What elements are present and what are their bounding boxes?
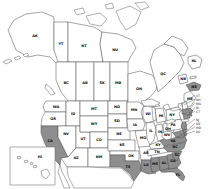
region-label-nm: NM: [96, 155, 103, 159]
region-label-mt: MT: [91, 107, 97, 111]
region-label-pa: PA: [171, 123, 176, 127]
region-label-mn: MN: [131, 108, 137, 112]
region-label-oh: OH: [165, 127, 171, 131]
region-label-ab: AB: [82, 81, 88, 85]
region-label-wv: WV: [164, 133, 171, 137]
region-label-ut: UT: [80, 137, 86, 141]
region-label-nu: NU: [112, 48, 118, 52]
region-pe: [190, 76, 196, 79]
hawaii-inset-label: HI: [38, 155, 42, 159]
region-label-fl: FL: [176, 173, 181, 177]
region-label-wi: WI: [145, 112, 150, 116]
callout-label-dc: DC: [196, 130, 201, 134]
region-nt: [68, 22, 103, 62]
region-label-va: VA: [170, 139, 175, 143]
region-md: [173, 130, 185, 138]
region-label-yt: YT: [58, 42, 65, 46]
region-label-ms: MS: [152, 162, 158, 166]
region-fl: [161, 168, 185, 181]
north-america-map-canvas: AKYTNTNUBCABSKMBONQCNLNBNSWAORCAIDNVUTAZ…: [0, 0, 209, 189]
vancouver-island: [45, 84, 55, 95]
region-label-ky: KY: [155, 143, 161, 147]
region-label-nb: NB: [180, 77, 186, 81]
region-label-nt: NT: [81, 44, 87, 48]
callout-label-ct: CT: [196, 110, 200, 114]
region-label-in: IN: [158, 130, 162, 134]
region-label-nl: NL: [191, 59, 197, 63]
region-label-ne: NE: [116, 132, 122, 136]
mexico-mainland: [67, 167, 134, 188]
distribution-map: AKYTNTNUBCABSKMBONQCNLNBNSWAORCAIDNVUTAZ…: [0, 0, 209, 189]
region-label-nv: NV: [63, 132, 69, 136]
region-label-id: ID: [71, 112, 75, 116]
region-label-bc: BC: [63, 81, 69, 85]
region-label-nc: NC: [172, 145, 178, 149]
region-label-ak: AK: [32, 34, 38, 38]
region-label-ia: IA: [133, 123, 137, 127]
region-nu: [100, 32, 136, 62]
region-label-ks: KS: [119, 143, 125, 147]
region-label-ca: CA: [47, 139, 53, 143]
region-label-mi: MI: [159, 114, 164, 118]
region-label-sd: SD: [114, 119, 119, 123]
region-label-sk: SK: [99, 81, 104, 85]
region-label-ns: NS: [191, 85, 197, 89]
region-label-al: AL: [162, 161, 168, 165]
hawaii-inset-box: [10, 147, 55, 185]
region-label-sc: SC: [174, 153, 179, 157]
region-label-nd: ND: [114, 105, 120, 109]
region-label-or: OR: [50, 117, 56, 121]
long-island: [181, 119, 189, 122]
region-label-la: LA: [144, 163, 149, 167]
region-label-qc: QC: [160, 72, 166, 76]
region-label-tn: TN: [154, 150, 159, 154]
region-label-wa: WA: [53, 105, 60, 109]
region-label-co: CO: [96, 138, 102, 142]
lake-huron: [163, 104, 170, 110]
region-label-mb: MB: [115, 81, 121, 85]
region-label-on: ON: [136, 87, 142, 91]
aleutian-islands: [3, 53, 29, 64]
region-label-az: AZ: [73, 156, 79, 160]
region-label-ga: GA: [170, 159, 176, 163]
region-label-ny: NY: [169, 113, 175, 117]
region-label-ar: AR: [143, 151, 149, 155]
region-label-tx: TX: [125, 165, 130, 169]
region-label-wy: WY: [91, 122, 98, 126]
region-label-mo: MO: [140, 136, 146, 140]
region-label-ok: OK: [128, 154, 134, 158]
